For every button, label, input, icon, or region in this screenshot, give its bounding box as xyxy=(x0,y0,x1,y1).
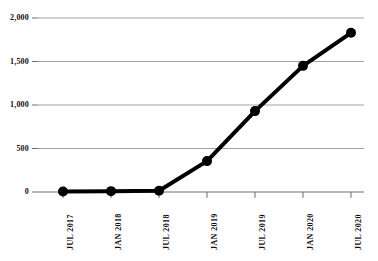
x-axis-tick-label: JAN 2018 xyxy=(115,213,123,250)
x-axis-tick-label: JUL 2018 xyxy=(163,214,171,250)
x-axis-tick-label: JUL 2020 xyxy=(355,214,363,250)
y-axis-tick-marks xyxy=(32,18,38,192)
x-axis-tick-label: JUL 2017 xyxy=(67,214,75,250)
data-point-marker xyxy=(298,61,308,71)
x-axis-tick-label: JAN 2020 xyxy=(307,213,315,250)
data-point-marker xyxy=(346,28,356,38)
data-point-marker xyxy=(202,156,212,166)
data-point-marker xyxy=(250,106,260,116)
series-line xyxy=(63,33,351,192)
x-axis-tick-label: JAN 2019 xyxy=(211,213,219,250)
y-axis-tick-label: 0 xyxy=(25,188,29,196)
data-point-markers xyxy=(58,28,356,197)
line-chart: 05001,0001,5002,000 JUL 2017JAN 2018JUL … xyxy=(0,0,378,261)
data-point-marker xyxy=(58,187,68,197)
chart-plot-area xyxy=(0,0,378,261)
x-axis-tick-label: JUL 2019 xyxy=(259,214,267,250)
data-point-marker xyxy=(106,186,116,196)
y-axis-tick-label: 1,500 xyxy=(10,58,29,66)
y-axis-tick-label: 1,000 xyxy=(10,101,29,109)
data-point-marker xyxy=(154,186,164,196)
y-axis-tick-label: 500 xyxy=(16,145,29,153)
y-axis-tick-label: 2,000 xyxy=(10,14,29,22)
